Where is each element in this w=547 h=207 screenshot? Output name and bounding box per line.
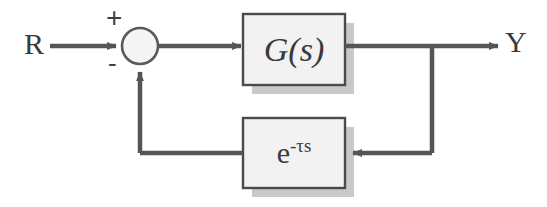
summing-junction-minus-sign: - [108,50,117,76]
block-diagram: R Y + - G(s) e-τs [0,0,547,207]
output-signal-label: Y [505,27,527,57]
diagram-canvas [0,0,547,207]
plant-block [243,14,345,85]
delay-block [243,118,345,188]
summing-junction-circle [122,28,158,64]
summing-junction-plus-sign: + [106,4,122,32]
input-signal-label: R [24,29,44,59]
